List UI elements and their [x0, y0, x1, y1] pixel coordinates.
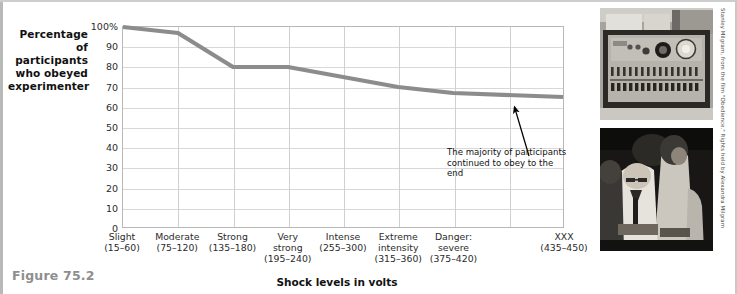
x-axis-tick-range: (75–120): [150, 242, 205, 253]
y-axis-tick-100: 100%: [78, 21, 118, 32]
series-line-percentage-who-obeyed: [123, 27, 563, 97]
y-axis-tick-40: 40: [78, 142, 118, 153]
y-axis-tick-10: 10: [78, 202, 118, 213]
x-axis-tick-intense: Intense(255–300): [315, 231, 370, 253]
y-axis-tick-60: 60: [78, 101, 118, 112]
x-axis-tick-range: (435–450): [536, 242, 591, 253]
x-axis-tick-name: Very: [260, 231, 315, 242]
annotation-text: The majority of participants continued t…: [447, 147, 569, 179]
plot-area: [122, 26, 564, 228]
figure-root: Percentageof participantswho obeyedexper…: [0, 0, 737, 294]
y-axis-title-line-0: Percentage: [8, 28, 88, 41]
x-axis-tick-slight: Slight(15–60): [94, 231, 149, 253]
y-axis-tick-50: 50: [78, 122, 118, 133]
y-axis-title-line-3: experimenter: [8, 80, 88, 93]
x-axis-tick-name: strong: [260, 242, 315, 253]
x-axis-tick-xxx: XXX(435–450): [536, 231, 591, 253]
learner-strapped-photo: [600, 128, 713, 251]
x-axis-tick-moderate: Moderate(75–120): [150, 231, 205, 253]
page-edge-left: [0, 0, 3, 294]
x-axis-tick-name: Moderate: [150, 231, 205, 242]
x-axis-tick-name: Slight: [94, 231, 149, 242]
x-axis-tick-labels: Slight(15–60)Moderate(75–120)Strong(135–…: [122, 231, 564, 277]
y-axis-tick-20: 20: [78, 182, 118, 193]
y-axis-tick-labels: 0102030405060708090100%: [78, 26, 118, 228]
x-axis-tick-range: (135–180): [205, 242, 260, 253]
x-axis-tick-strong: Strong(135–180): [205, 231, 260, 253]
x-axis-tick-range: (15–60): [94, 242, 149, 253]
x-axis-tick-range: (375–420): [426, 253, 481, 264]
x-axis-tick-range: (195–240): [260, 253, 315, 264]
y-axis-title-line-2: who obeyed: [8, 67, 88, 80]
y-axis-tick-30: 30: [78, 162, 118, 173]
x-axis-tick-range: (255–300): [315, 242, 370, 253]
photo-credit: Stanley Milgram, from the film "Obedienc…: [714, 8, 726, 248]
y-axis-title-line-1: of participants: [8, 41, 88, 67]
x-axis-tick-name: intensity: [371, 242, 426, 253]
shock-generator-photo: [600, 8, 713, 120]
y-axis-tick-70: 70: [78, 81, 118, 92]
figure-number: Figure 75.2: [12, 268, 95, 283]
x-axis-tick-name: Intense: [315, 231, 370, 242]
x-axis-tick-range: (315–360): [371, 253, 426, 264]
x-axis-tick-name: severe: [426, 242, 481, 253]
x-axis-title: Shock levels in volts: [222, 276, 452, 288]
data-series-line: [123, 27, 563, 227]
y-axis-tick-90: 90: [78, 41, 118, 52]
page-edge-top: [0, 0, 737, 2]
x-axis-tick-name: XXX: [536, 231, 591, 242]
x-axis-tick-name: Extreme: [371, 231, 426, 242]
x-axis-tick-danger-severe: Danger:severe(375–420): [426, 231, 481, 265]
x-axis-tick-name: Danger:: [426, 231, 481, 242]
x-axis-tick-extreme-intensity: Extremeintensity(315–360): [371, 231, 426, 265]
x-axis-tick-name: Strong: [205, 231, 260, 242]
y-axis-title: Percentageof participantswho obeyedexper…: [8, 28, 88, 93]
x-axis-tick-very-strong: Verystrong(195–240): [260, 231, 315, 265]
y-axis-tick-80: 80: [78, 61, 118, 72]
